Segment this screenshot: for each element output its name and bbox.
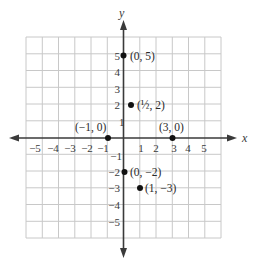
y-tick-label: −2 <box>108 166 120 178</box>
point-marker <box>128 102 134 108</box>
y-tick-label: −5 <box>108 216 120 228</box>
point-label: (0, 5) <box>130 50 155 63</box>
y-tick-label: 5 <box>115 50 121 62</box>
point-marker <box>122 169 128 175</box>
y-tick-label: −1 <box>110 150 122 162</box>
x-tick-label: 3 <box>171 142 177 154</box>
x-tick-label: 1 <box>138 142 144 154</box>
point-label: (3, 0) <box>159 121 184 134</box>
x-axis: x <box>9 131 248 145</box>
point-label: (1, −3) <box>145 182 177 195</box>
point-label: (−1, 0) <box>75 121 107 134</box>
y-axis-label: y <box>118 6 125 20</box>
y-axis-bottom-arrow-icon <box>120 248 127 258</box>
y-axis-top-arrow-icon <box>120 20 127 30</box>
point-marker <box>170 135 176 141</box>
y-tick-label: 4 <box>115 66 121 78</box>
coordinate-plane: x y −5 −4 −3 −2 −1 1 2 3 4 5 5 4 3 2 1 −… <box>0 0 257 266</box>
point-marker <box>121 53 127 59</box>
y-tick-label: −4 <box>108 199 120 211</box>
x-axis-left-arrow-icon <box>9 135 19 142</box>
x-tick-label: −4 <box>47 142 59 154</box>
y-tick-label: 2 <box>115 99 121 111</box>
point-label: (½, 2) <box>137 99 165 112</box>
x-tick-label: −2 <box>81 142 93 154</box>
x-axis-right-arrow-icon <box>227 135 237 142</box>
point-label: (0, −2) <box>130 166 162 179</box>
y-tick-label: −3 <box>108 182 120 194</box>
x-tick-label: −3 <box>64 142 76 154</box>
x-axis-label: x <box>241 131 248 145</box>
x-tick-label: 4 <box>185 142 191 154</box>
x-tick-label: 5 <box>201 142 207 154</box>
x-tick-label: −5 <box>29 142 41 154</box>
y-tick-label: 1 <box>119 116 125 128</box>
y-tick-label: 3 <box>115 83 121 95</box>
x-tick-label: −1 <box>97 142 109 154</box>
point-marker <box>137 185 143 191</box>
point-marker <box>105 135 111 141</box>
x-tick-label: 2 <box>153 142 159 154</box>
